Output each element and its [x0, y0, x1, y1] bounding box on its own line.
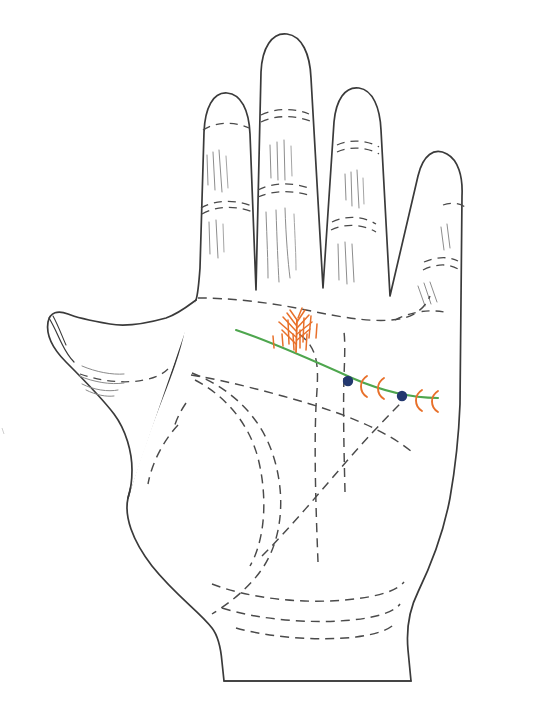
edge-artifact: [2, 428, 4, 434]
tassel-upright-1: [288, 320, 289, 344]
tassel-upright-5: [273, 336, 274, 348]
tassel-upright-4: [282, 334, 283, 346]
tassel-upright-2: [303, 318, 304, 342]
tassel-upright-6: [316, 324, 317, 338]
palm-illustration: [0, 0, 537, 716]
hand-silhouette: [127, 34, 462, 681]
tassel-upright-9: [306, 334, 307, 350]
palm-diagram-canvas: [0, 0, 537, 716]
tassel-upright-7: [293, 334, 294, 350]
hand-outline-group: [48, 34, 463, 681]
blue-dot-mark-1: [343, 376, 353, 386]
edge-artifact-mark: [2, 428, 4, 434]
blue-dot-mark-2: [397, 391, 407, 401]
